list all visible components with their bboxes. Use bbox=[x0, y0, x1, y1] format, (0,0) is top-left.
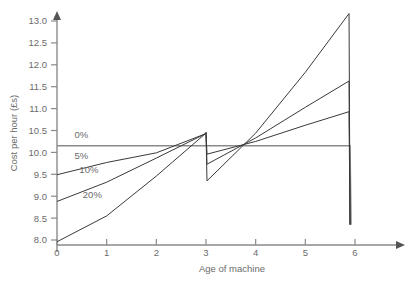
y-axis-arrowhead bbox=[53, 11, 61, 20]
chart-container: 8.08.59.09.510.010.511.011.512.012.513.0… bbox=[0, 0, 415, 282]
y-tick-label: 8.5 bbox=[34, 213, 47, 224]
x-tick-label: 0 bbox=[54, 247, 59, 258]
series-label-5pct: 5% bbox=[74, 150, 88, 161]
series-line-20pct bbox=[57, 14, 350, 242]
series-line-10pct bbox=[57, 81, 350, 225]
y-tick-label: 10.5 bbox=[29, 125, 48, 136]
y-tick-label: 10.0 bbox=[29, 147, 48, 158]
chart-plot-area: 8.08.59.09.510.010.511.011.512.012.513.0… bbox=[0, 0, 415, 282]
x-axis-ticks: 0123456 bbox=[54, 239, 357, 258]
series-line-0pct bbox=[57, 146, 351, 225]
x-tick-label: 6 bbox=[352, 247, 357, 258]
y-tick-label: 9.5 bbox=[34, 169, 47, 180]
y-tick-label: 8.0 bbox=[34, 234, 47, 245]
y-tick-label: 12.5 bbox=[29, 37, 48, 48]
series-line-5pct bbox=[57, 112, 350, 225]
x-axis-title: Age of machine bbox=[199, 263, 265, 274]
series-label-10pct: 10% bbox=[79, 164, 99, 175]
x-axis-group: 0123456 bbox=[54, 239, 405, 258]
y-tick-label: 9.0 bbox=[34, 191, 47, 202]
y-tick-label: 11.0 bbox=[29, 103, 47, 114]
y-tick-label: 11.5 bbox=[29, 81, 47, 92]
series-label-20pct: 20% bbox=[83, 189, 103, 200]
x-tick-label: 5 bbox=[303, 247, 308, 258]
y-axis-title: Cost per hour (£s) bbox=[8, 95, 19, 172]
x-tick-label: 2 bbox=[154, 247, 159, 258]
data-series-group bbox=[57, 14, 351, 242]
x-tick-label: 1 bbox=[104, 247, 109, 258]
y-tick-label: 12.0 bbox=[29, 59, 48, 70]
series-inline-labels: 0%5%10%20% bbox=[74, 129, 102, 200]
x-tick-label: 4 bbox=[253, 247, 258, 258]
x-axis-arrowhead bbox=[396, 241, 405, 249]
y-axis-ticks: 8.08.59.09.510.010.511.011.512.012.513.0 bbox=[29, 15, 58, 245]
x-tick-label: 3 bbox=[203, 247, 208, 258]
series-label-0pct: 0% bbox=[74, 129, 88, 140]
y-axis-group: 8.08.59.09.510.010.511.011.512.012.513.0 bbox=[29, 11, 62, 252]
y-tick-label: 13.0 bbox=[29, 15, 48, 26]
